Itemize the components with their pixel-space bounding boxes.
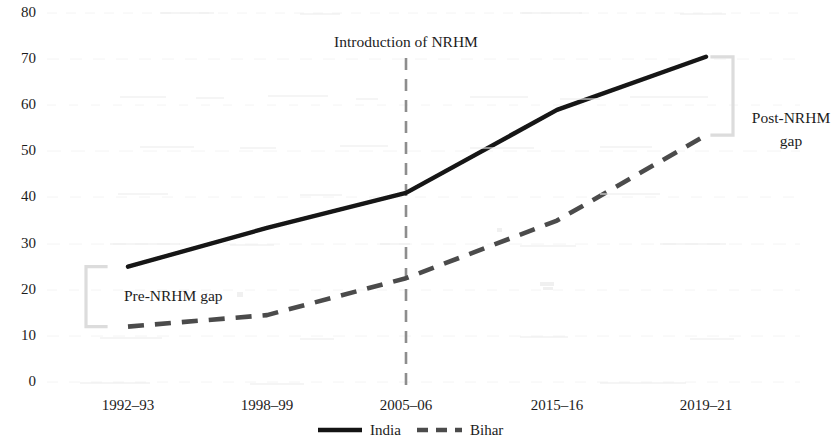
line-chart-canvas <box>0 0 831 440</box>
annotation-post-nrhm-gap-line1: Post-NRHM <box>743 110 831 126</box>
annotation-introduction-of-nrhm: Introduction of NRHM <box>286 34 526 50</box>
y-tick-0: 0 <box>2 374 36 389</box>
x-tick-1992-93: 1992–93 <box>73 398 183 413</box>
chart-figure: 80 70 60 50 40 30 20 10 0 1992–93 1998–9… <box>0 0 831 440</box>
post-nrhm-gap-bracket <box>712 57 733 135</box>
y-tick-70: 70 <box>2 51 36 66</box>
y-tick-80: 80 <box>2 5 36 20</box>
x-tick-1998-99: 1998–99 <box>212 398 322 413</box>
series-india-line <box>128 57 706 267</box>
x-tick-2005-06: 2005–06 <box>351 398 461 413</box>
pre-nrhm-gap-bracket <box>86 267 106 327</box>
y-tick-60: 60 <box>2 97 36 112</box>
annotation-post-nrhm-gap-line2: gap <box>743 133 831 149</box>
y-tick-10: 10 <box>2 328 36 343</box>
annotation-pre-nrhm-gap: Pre-NRHM gap <box>124 288 223 304</box>
x-tick-2015-16: 2015–16 <box>502 398 612 413</box>
y-tick-50: 50 <box>2 143 36 158</box>
legend-label-bihar: Bihar <box>470 423 503 438</box>
gridlines <box>47 13 800 382</box>
y-tick-30: 30 <box>2 236 36 251</box>
legend-label-india: India <box>370 423 401 438</box>
y-tick-40: 40 <box>2 189 36 204</box>
y-tick-20: 20 <box>2 282 36 297</box>
x-tick-2019-21: 2019–21 <box>651 398 761 413</box>
